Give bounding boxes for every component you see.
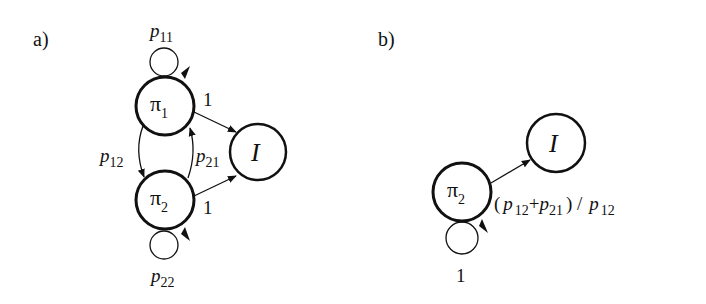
svg-text:1: 1 [456, 265, 466, 286]
node-pi1: π1 [136, 77, 194, 135]
svg-text:I: I [548, 129, 559, 158]
svg-text:1: 1 [203, 89, 213, 110]
node-absorbing-I-b: I [527, 114, 585, 172]
panel-b: b) I π2 1 (p12+p21) / p12 [378, 28, 615, 286]
node-pi2: π2 [136, 171, 194, 229]
arrowhead-icon [181, 66, 190, 79]
edge-p22-self-loop: p22 [149, 227, 190, 290]
edge-label-p21: p21 [194, 145, 220, 170]
edge-p21: p21 [188, 128, 220, 178]
arrowhead-icon [181, 227, 190, 241]
arrowhead-icon [479, 219, 488, 233]
panel-b-label: b) [378, 28, 395, 51]
svg-text:I: I [250, 138, 261, 167]
markov-chain-figure: a) p11 π1 π2 p22 I [0, 0, 706, 304]
edge-p12: p12 [98, 126, 144, 177]
node-absorbing-I: I [230, 124, 286, 180]
edge-label-p11: p11 [148, 20, 173, 45]
panel-a: a) p11 π1 π2 p22 I [33, 20, 286, 290]
edge-label-p22: p22 [149, 265, 175, 290]
svg-text:1: 1 [203, 197, 213, 218]
panel-a-label: a) [33, 28, 49, 51]
edge-pi1-to-I: 1 [194, 89, 236, 132]
edge-pi2-self-loop-b: 1 [446, 219, 488, 286]
edge-pi2-to-I: 1 [194, 176, 236, 218]
edge-label-absorption-rate: (p12+p21) / p12 [494, 193, 615, 218]
edge-p11-self-loop: p11 [148, 20, 190, 79]
node-pi2-b: π2 [433, 163, 491, 221]
edge-label-p12: p12 [98, 145, 124, 170]
